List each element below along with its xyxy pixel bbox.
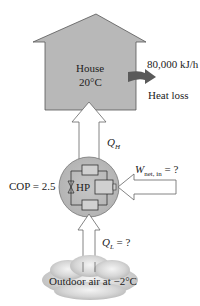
q-high-label: QH	[107, 136, 120, 151]
cop-label: COP = 2.5	[9, 180, 55, 192]
q-high-subscript: H	[115, 143, 120, 151]
q-low-symbol: Q	[102, 236, 110, 248]
w-net-label: Wnet, in = ?	[135, 163, 178, 178]
outdoor-air-label: Outdoor air at −2°C	[49, 275, 137, 287]
q-high-symbol: Q	[107, 136, 115, 148]
hp-label: HP	[76, 181, 90, 193]
w-net-symbol: W	[135, 163, 144, 175]
q-low-label: QL = ?	[102, 236, 130, 251]
heat-pump-diagram	[0, 0, 200, 306]
w-net-suffix: = ?	[162, 163, 179, 175]
heat-loss-label: Heat loss	[148, 89, 189, 101]
q-low-suffix: = ?	[114, 236, 131, 248]
w-net-subscript: net, in	[144, 170, 162, 178]
heat-loss-rate: 80,000 kJ/h	[147, 58, 198, 70]
house-temperature: 20°C	[79, 76, 102, 88]
house-label: House	[76, 62, 104, 74]
q-high-arrow	[72, 102, 106, 160]
